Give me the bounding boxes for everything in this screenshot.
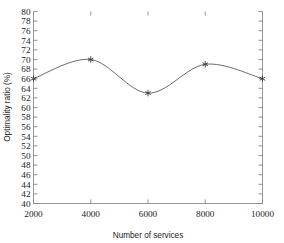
- series-line: [34, 59, 263, 93]
- y-tick-label: 76: [21, 26, 31, 36]
- y-tick-label: 48: [21, 160, 31, 170]
- y-tick-label: 80: [21, 7, 31, 17]
- y-tick-label: 60: [21, 103, 31, 113]
- y-axis-ticks: 4042444648505254565860626466687072747678…: [21, 7, 262, 209]
- y-tick-label: 70: [21, 55, 31, 65]
- y-tick-label: 74: [21, 36, 31, 46]
- chart-figure: 4042444648505254565860626466687072747678…: [0, 0, 284, 243]
- x-tick-label: 10000: [251, 209, 274, 219]
- x-tick-label: 8000: [196, 209, 215, 219]
- y-tick-label: 58: [21, 112, 31, 122]
- y-tick-label: 54: [21, 132, 31, 142]
- y-tick-label: 72: [21, 45, 31, 55]
- y-tick-label: 42: [21, 189, 31, 199]
- x-axis-title: Number of services: [113, 231, 184, 240]
- y-tick-label: 44: [21, 180, 31, 190]
- line-chart: 4042444648505254565860626466687072747678…: [0, 0, 284, 243]
- y-tick-label: 68: [21, 64, 31, 74]
- data-markers: [31, 56, 266, 96]
- x-tick-label: 2000: [24, 209, 43, 219]
- axis-frame: [34, 12, 263, 204]
- axis-spines: [34, 12, 263, 204]
- y-tick-label: 56: [21, 122, 31, 132]
- y-axis-title: Optimality ratio (%): [3, 72, 12, 142]
- y-tick-label: 40: [21, 199, 31, 209]
- y-tick-label: 62: [21, 93, 31, 103]
- y-tick-label: 46: [21, 170, 31, 180]
- y-tick-label: 52: [21, 141, 31, 151]
- x-axis-ticks: 200040006000800010000: [24, 12, 274, 219]
- y-tick-label: 64: [21, 84, 31, 94]
- y-tick-label: 50: [21, 151, 31, 161]
- x-tick-label: 6000: [139, 209, 158, 219]
- y-tick-label: 66: [21, 74, 31, 84]
- y-tick-label: 78: [21, 16, 31, 26]
- x-tick-label: 4000: [82, 209, 101, 219]
